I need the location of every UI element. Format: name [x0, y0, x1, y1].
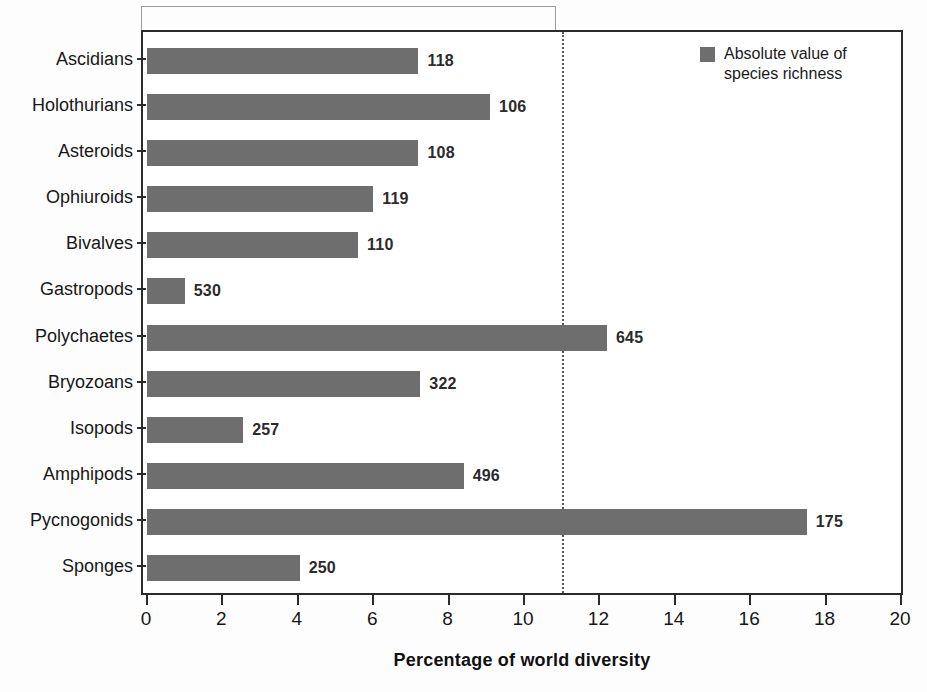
y-axis-category-label: Ascidians: [3, 49, 133, 70]
y-axis-category-label: Holothurians: [3, 95, 133, 116]
bar: [147, 555, 300, 581]
y-axis-category-label: Asteroids: [3, 141, 133, 162]
bar-value-label: 645: [616, 329, 643, 347]
x-axis-tick-label: 2: [201, 608, 241, 630]
bar-value-label: 175: [816, 513, 843, 531]
bar-value-label: 250: [309, 559, 336, 577]
x-axis-tick: [900, 595, 902, 605]
legend-swatch-icon: [700, 47, 715, 62]
x-axis-title: Percentage of world diversity: [141, 650, 903, 671]
bar-value-label: 108: [427, 144, 454, 162]
bar: [147, 463, 464, 489]
x-axis-tick: [146, 595, 148, 605]
y-axis-category-label: Bivalves: [3, 233, 133, 254]
y-axis-tick: [137, 58, 146, 60]
x-axis-tick-label: 16: [729, 608, 769, 630]
y-axis-tick: [137, 150, 146, 152]
bar: [147, 278, 185, 304]
bar: [147, 371, 420, 397]
x-axis-tick: [523, 595, 525, 605]
bar-value-label: 530: [194, 282, 221, 300]
x-axis-tick-label: 14: [654, 608, 694, 630]
y-axis-category-label: Amphipods: [3, 463, 133, 484]
x-axis-tick: [297, 595, 299, 605]
bar-value-label: 496: [473, 467, 500, 485]
bar-value-label: 257: [252, 421, 279, 439]
y-axis-tick: [137, 196, 146, 198]
x-axis-tick-label: 6: [352, 608, 392, 630]
x-axis-tick-label: 4: [277, 608, 317, 630]
bar: [147, 140, 418, 166]
y-axis-category-label: Pycnogonids: [3, 509, 133, 530]
x-axis-tick: [598, 595, 600, 605]
legend-label: Absolute value of species richness: [724, 44, 847, 84]
y-axis-tick: [137, 565, 146, 567]
bar: [147, 94, 490, 120]
bar-value-label: 110: [367, 236, 393, 254]
bar: [147, 48, 418, 74]
bar-value-label: 322: [429, 375, 456, 393]
y-axis-category-label: Bryozoans: [3, 371, 133, 392]
y-axis-tick: [137, 381, 146, 383]
y-axis-tick: [137, 335, 146, 337]
x-axis-tick-label: 10: [503, 608, 543, 630]
y-axis-tick: [137, 242, 146, 244]
legend: Absolute value of species richness: [700, 44, 847, 84]
y-axis-category-label: Ophiuroids: [3, 187, 133, 208]
y-axis-tick: [137, 288, 146, 290]
x-axis-tick-label: 20: [880, 608, 920, 630]
bar-value-label: 106: [499, 98, 526, 116]
y-axis-category-label: Sponges: [3, 555, 133, 576]
y-axis-tick: [137, 473, 146, 475]
x-axis-tick-label: 8: [428, 608, 468, 630]
plot-area: 118106108119110530645322257496175250: [143, 32, 901, 593]
x-axis-tick-label: 12: [578, 608, 618, 630]
top-bracket-annotation: [141, 6, 556, 30]
x-axis-tick: [221, 595, 223, 605]
x-axis-tick-label: 18: [805, 608, 845, 630]
bar: [147, 232, 358, 258]
x-axis-tick: [749, 595, 751, 605]
plot-frame: 118106108119110530645322257496175250: [141, 30, 903, 595]
y-axis-tick: [137, 427, 146, 429]
bar-value-label: 119: [382, 190, 408, 208]
bar: [147, 325, 607, 351]
x-axis-tick: [372, 595, 374, 605]
x-axis-tick: [825, 595, 827, 605]
bar: [147, 509, 807, 535]
bar: [147, 417, 243, 443]
chart-figure: 118106108119110530645322257496175250 Asc…: [0, 0, 927, 692]
y-axis-tick: [137, 519, 146, 521]
y-axis-category-label: Isopods: [3, 417, 133, 438]
bar: [147, 186, 373, 212]
x-axis-tick: [448, 595, 450, 605]
y-axis-category-label: Gastropods: [3, 279, 133, 300]
bar-value-label: 118: [427, 52, 453, 70]
y-axis-tick: [137, 104, 146, 106]
y-axis-category-label: Polychaetes: [3, 325, 133, 346]
x-axis-tick: [674, 595, 676, 605]
x-axis-tick-label: 0: [126, 608, 166, 630]
